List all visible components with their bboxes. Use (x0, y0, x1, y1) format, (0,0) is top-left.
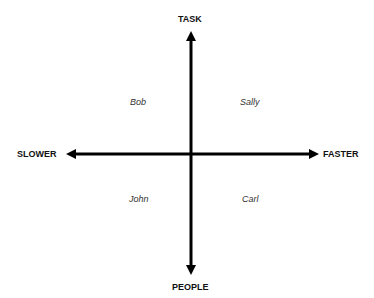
arrow-left-icon (66, 149, 76, 159)
axis-label-bottom: PEOPLE (172, 282, 209, 292)
arrow-up-icon (186, 31, 196, 41)
arrow-down-icon (186, 265, 196, 275)
axis-label-top: TASK (178, 14, 202, 24)
quadrant-name-bottom-right: Carl (242, 194, 259, 204)
axis-label-right: FASTER (323, 149, 359, 159)
quadrant-name-bottom-left: John (129, 194, 149, 204)
quadrant-name-top-left: Bob (130, 97, 146, 107)
axis-label-left: SLOWER (17, 149, 57, 159)
arrow-right-icon (309, 149, 319, 159)
quadrant-name-top-right: Sally (240, 97, 260, 107)
